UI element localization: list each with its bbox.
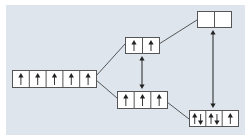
connector-line: [159, 20, 197, 44]
orbital-level-lower-right: [190, 111, 239, 127]
connector-line: [96, 80, 117, 98]
orbital-splitting-diagram: [0, 0, 248, 138]
double-arrow-up-icon: [139, 56, 144, 61]
connector-line: [167, 102, 189, 119]
double-arrow-up-icon: [210, 30, 215, 35]
double-arrow-down-icon: [210, 104, 215, 109]
connector-line: [96, 44, 125, 76]
double-arrow-down-icon: [139, 85, 144, 90]
